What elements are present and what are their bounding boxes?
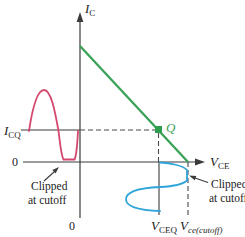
clip-right-arrowhead-icon <box>189 176 196 181</box>
figure-canvas: IC VCE ICQ 0 0 Q VCEQ Vce(cutoff) Clippe… <box>0 0 245 237</box>
clip-right-annotation-line1: Clipped <box>211 178 245 191</box>
vce-cutoff-label: Vce(cutoff) <box>180 218 222 235</box>
input-current-waveform <box>29 90 78 160</box>
dc-load-line <box>80 46 188 162</box>
q-point-marker <box>155 126 162 133</box>
q-point-label: Q <box>166 120 176 135</box>
clip-left-annotation-line2: at cutoff <box>28 194 67 206</box>
clip-right-annotation-line2: at cutoff <box>209 192 245 204</box>
output-voltage-waveform <box>126 163 187 212</box>
zero-left-label: 0 <box>12 155 18 169</box>
x-axis-label: VCE <box>210 154 230 171</box>
clip-right-arrow-line <box>195 178 208 183</box>
clip-left-annotation-line1: Clipped <box>31 180 68 193</box>
y-axis-label: IC <box>84 1 95 18</box>
icq-label: ICQ <box>3 123 21 140</box>
y-axis-arrowhead-icon <box>77 12 84 22</box>
zero-origin-label: 0 <box>69 219 75 233</box>
x-axis-arrowhead-icon <box>195 159 205 166</box>
vceq-label: VCEQ <box>151 218 177 235</box>
load-line-clipping-figure: IC VCE ICQ 0 0 Q VCEQ Vce(cutoff) Clippe… <box>0 0 245 237</box>
